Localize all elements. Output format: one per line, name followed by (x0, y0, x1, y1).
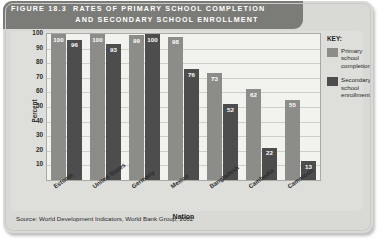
legend-color-swatch (327, 77, 338, 86)
legend-item-label: Secondary school enrollment (341, 76, 377, 98)
bar-value-label: 52 (223, 106, 238, 113)
y-axis-tick-labels: 100908070605040302010 (23, 31, 43, 181)
legend-title: KEY: (327, 35, 377, 42)
source-note: Source: World Development Indicators, Wo… (16, 215, 193, 222)
plot-area: 1009610093991009876735262225513 (46, 33, 321, 181)
figure-title-line-2: AND SECONDARY SCHOOL ENROLLMENT (11, 15, 297, 26)
bar-value-label: 55 (285, 101, 300, 108)
bar-group: 7352 (207, 34, 240, 180)
y-axis-tick-label: 50 (36, 103, 43, 109)
bar-value-label: 93 (106, 46, 121, 53)
bar-secondary-enrollment: 93 (106, 44, 121, 180)
y-axis-tick-label: 80 (36, 59, 43, 65)
figure-title-text-1: RATES OF PRIMARY SCHOOL COMPLETION (73, 4, 265, 13)
y-axis-tick-label: 70 (36, 74, 43, 80)
x-axis-tick-labels: EstoniaUnited StatesGermanyMexicoBanglad… (46, 182, 321, 214)
chart-panel: Percent 100908070605040302010 1009610093… (11, 31, 363, 211)
figure-title-line-1: FIGURE 18.3 RATES OF PRIMARY SCHOOL COMP… (11, 4, 297, 15)
legend-item: Secondary school enrollment (327, 76, 377, 98)
legend-item-label: Primary school completion (341, 47, 377, 69)
bar-value-label: 100 (90, 36, 105, 43)
bar-secondary-enrollment: 100 (145, 34, 160, 180)
bar-primary-completion: 55 (285, 100, 300, 180)
figure-label: FIGURE (11, 4, 45, 13)
figure-header-banner: FIGURE 18.3 RATES OF PRIMARY SCHOOL COMP… (3, 1, 303, 29)
bar-group: 5513 (285, 34, 318, 180)
bar-secondary-enrollment: 76 (184, 69, 199, 180)
y-axis-tick-label: 100 (32, 30, 43, 36)
bar-group: 10093 (90, 34, 123, 180)
legend-color-swatch (327, 48, 338, 57)
y-axis-tick-label: 20 (36, 147, 43, 153)
bar-group: 10096 (51, 34, 84, 180)
bar-value-label: 76 (184, 71, 199, 78)
bar-value-label: 100 (51, 36, 66, 43)
bar-value-label: 22 (262, 149, 277, 156)
bar-value-label: 62 (246, 91, 261, 98)
bar-group: 9876 (168, 34, 201, 180)
figure-card: FIGURE 18.3 RATES OF PRIMARY SCHOOL COMP… (3, 1, 373, 233)
bar-value-label: 100 (145, 36, 160, 43)
bar-value-label: 98 (168, 38, 183, 45)
bar-group: 99100 (129, 34, 162, 180)
y-axis-tick-label: 60 (36, 88, 43, 94)
y-axis-tick-label: 40 (36, 118, 43, 124)
figure-number: 18.3 (48, 4, 67, 13)
y-axis-tick-label: 90 (36, 45, 43, 51)
bar-group: 6222 (246, 34, 279, 180)
figure-title-text-2: AND SECONDARY SCHOOL ENROLLMENT (75, 15, 258, 24)
bar-value-label: 96 (67, 41, 82, 48)
bar-primary-completion: 73 (207, 73, 222, 180)
legend-item: Primary school completion (327, 47, 377, 69)
bar-primary-completion: 98 (168, 37, 183, 180)
bar-primary-completion: 62 (246, 89, 261, 180)
bar-primary-completion: 100 (90, 34, 105, 180)
bar-primary-completion: 99 (129, 35, 144, 180)
y-axis-tick-label: 30 (36, 132, 43, 138)
bar-value-label: 99 (129, 37, 144, 44)
legend-items: Primary school completionSecondary schoo… (327, 47, 377, 98)
chart-legend: KEY: Primary school completionSecondary … (327, 35, 377, 105)
bar-secondary-enrollment: 96 (67, 40, 82, 180)
y-axis-tick-label: 10 (36, 161, 43, 167)
bar-value-label: 73 (207, 75, 222, 82)
bar-primary-completion: 100 (51, 34, 66, 180)
